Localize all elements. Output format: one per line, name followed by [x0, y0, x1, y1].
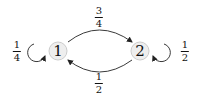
fraction-denominator: 4 — [13, 53, 21, 63]
fraction-denominator: 2 — [95, 85, 103, 95]
fraction-denominator: 2 — [181, 53, 189, 63]
node-1-label: 1 — [53, 42, 63, 60]
edge-label-self-loop-1: 1 4 — [13, 40, 21, 63]
markov-chain-diagram: 1 2 3 4 1 2 1 4 1 2 — [0, 0, 198, 102]
edge-1-to-2 — [68, 30, 132, 42]
self-loop-1 — [28, 44, 45, 62]
fraction-numerator: 3 — [95, 6, 103, 16]
edge-label-2-to-1: 1 2 — [95, 72, 103, 95]
edge-label-self-loop-2: 1 2 — [181, 40, 189, 63]
self-loop-2 — [153, 44, 170, 62]
fraction-numerator: 1 — [13, 40, 21, 50]
node-1: 1 — [49, 42, 67, 60]
fraction-numerator: 1 — [181, 40, 189, 50]
node-2: 2 — [131, 42, 149, 60]
node-2-label: 2 — [135, 42, 145, 60]
fraction-denominator: 4 — [95, 19, 103, 29]
fraction-numerator: 1 — [95, 72, 103, 82]
edge-label-1-to-2: 3 4 — [95, 6, 103, 29]
